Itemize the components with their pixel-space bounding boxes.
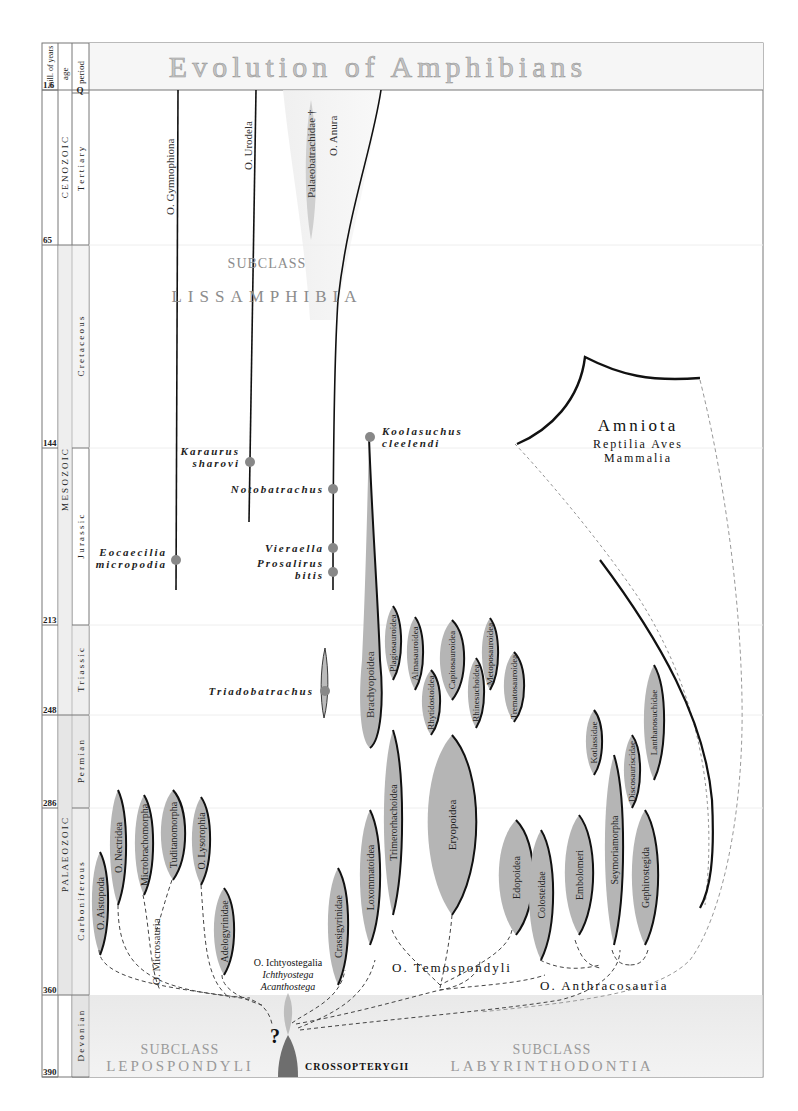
kotlassidae-label: Kotlassidae <box>589 722 599 764</box>
tick-label: 213 <box>43 615 57 625</box>
uncertain-origin-question-mark: ? <box>270 1025 280 1047</box>
seymouriamorpha-label: Seymoriamorpha <box>609 815 620 884</box>
tick-label: 248 <box>43 705 57 715</box>
period-label: J u r a s s i c <box>76 514 86 558</box>
lepospondyli-subclass-label: SUBCLASS <box>141 1042 220 1057</box>
microbrachomorpha-label: Microbrachomorpha <box>139 803 150 886</box>
triadobatrachus-label: Triadobatrachus <box>209 685 314 697</box>
loxommatoidea-label: Loxommatoidea <box>365 844 376 910</box>
svg-text:age: age <box>60 68 70 81</box>
palaeobatrachidae-label: Palaeobatrachidae † <box>305 109 317 198</box>
prosalirus-fossil-dot <box>328 567 338 577</box>
period-label: P e r m i a n <box>76 739 86 783</box>
tick-label: 360 <box>43 985 57 995</box>
tick-label: 1.6 <box>43 80 55 90</box>
tick-label: 144 <box>43 438 57 448</box>
crossopterygii-label: CROSSOPTERYGII <box>305 1061 409 1072</box>
tick-label: 286 <box>43 798 57 808</box>
triadobatrachus-fossil-dot <box>320 686 330 696</box>
microsauria-label: O. Microsauria <box>150 918 162 985</box>
colosteidae-label: Colosteidae <box>536 871 547 919</box>
rhytidostoidea-label: Rhytidostoidea <box>426 675 436 730</box>
page-title: Evolution of Amphibians <box>169 50 587 83</box>
lissamphibia-subclass-label: SUBCLASS <box>228 256 307 271</box>
lissamphibia-name: LISSAMPHIBIA <box>171 287 362 306</box>
vieraella-label: Vieraella <box>265 542 324 554</box>
tick-label: 65 <box>43 235 53 245</box>
labyrinthodontia-subclass-label: SUBCLASS <box>513 1042 592 1057</box>
trematosauroidea-label: Trematosauroidea <box>509 655 519 720</box>
labyrinthodontia-name: LABYRINTHODONTIA <box>451 1058 654 1074</box>
amniota-title: Amniota <box>598 416 679 435</box>
nectridea-label: O. Nectridea <box>113 821 124 873</box>
brachyopoidea-label: Brachyopoidea <box>364 651 376 718</box>
discosauriscidae-label: Discosauriscidae <box>627 741 637 802</box>
lanthanosuchidae-label: Lanthanosuchidae <box>649 690 659 755</box>
eocaecilia-label: Eocaecilia <box>98 546 167 558</box>
era-label: C E N O Z O I C <box>60 137 70 198</box>
temnospondyli-label: O. Temospondyli <box>392 960 512 975</box>
notobatrachus-label: Notobatrachus <box>230 483 324 495</box>
era-label: P A L A E O Z O I C <box>60 818 70 892</box>
svg-text:cleelendi: cleelendi <box>382 437 440 449</box>
edopoidea-label: Edopoidea <box>511 856 522 899</box>
svg-text:micropodia: micropodia <box>96 558 167 570</box>
vieraella-fossil-dot <box>328 543 338 553</box>
metoposauroidea-label: Metoposauroidea <box>485 623 495 685</box>
amniota-reptilia-aves: Reptilia Aves <box>593 437 683 451</box>
karaurus-label: Karaurus <box>180 445 240 457</box>
crassigyrinidae-label: Crassigyrinidae <box>333 895 344 958</box>
notobatrachus-fossil-dot <box>328 484 338 494</box>
gymnophiona-label: O. Gymnophiona <box>164 139 176 216</box>
embolomeri-label: Embolomeri <box>574 850 585 900</box>
plagiosauroidea-label: Plagiosauroidea <box>388 614 398 672</box>
period-label: T e r t i a r y <box>76 146 86 191</box>
prosalirus-label: Prosalirus <box>257 557 324 569</box>
ichthyostegalia-label: O. Ichtyostegalia <box>254 957 323 968</box>
anthracosauria-label: O. Anthracosauria <box>540 978 669 993</box>
period-label: C r e t a c e o u s <box>76 316 86 377</box>
amniota-mammalia: Mammalia <box>604 451 672 465</box>
amphibian-evolution-diagram: Evolution of Amphibians mill. of years a… <box>0 0 798 1111</box>
capitosauroidea-label: Capitosauroidea <box>447 631 457 689</box>
era-label: M E S O Z O I C <box>60 449 70 511</box>
rhinesuchoidea-label: Rhinesuchoidea <box>471 664 481 722</box>
svg-text:sharovi: sharovi <box>191 457 240 469</box>
gephyrostegida-label: Gephirostegida <box>640 846 651 908</box>
anura-label: O. Anura <box>327 116 339 156</box>
almasauroidea-label: Almasauroidea <box>410 626 420 680</box>
tick-label: 390 <box>43 1067 57 1077</box>
koolasuchus-label: Koolasuchus <box>381 425 463 437</box>
acanthostega-label: Acanthostega <box>260 981 315 992</box>
eocaecilia-fossil-dot <box>171 555 181 565</box>
urodela-label: O. Urodela <box>242 121 254 170</box>
lysorophia-label: O. Lysorophia <box>196 812 207 870</box>
karaurus-fossil-dot <box>245 457 255 467</box>
svg-text:period: period <box>76 61 86 84</box>
aistopoda-label: O. Aistopoda <box>95 877 106 930</box>
ichthyostega-label: Ichthyostega <box>261 969 313 980</box>
period-label: T r i a s s i c <box>76 648 86 692</box>
trimerorhachoidea-label: Trimerorhachoidea <box>388 784 399 861</box>
adelogyrinidae-label: Adelogyrinidae <box>219 900 230 963</box>
tuditanomorpha-label: Tuditanomorpha <box>168 801 179 868</box>
koolasuchus-fossil-dot <box>365 432 375 442</box>
svg-text:bitis: bitis <box>295 569 324 581</box>
period-label: Q <box>76 85 83 95</box>
period-label: D e v o n i a n <box>76 1010 86 1061</box>
lepospondyli-name: LEPOSPONDYLI <box>106 1058 254 1074</box>
eryopoidea-label: Eryopoidea <box>446 800 458 851</box>
period-label: C a r b o n i f e r o u s <box>76 862 86 941</box>
